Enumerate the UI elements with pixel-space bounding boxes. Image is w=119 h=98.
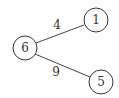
node-6-label: 6 bbox=[21, 41, 29, 55]
node-1: 1 bbox=[84, 8, 108, 32]
graph-diagram: 4 9 6 1 5 bbox=[0, 0, 119, 98]
edge-weight-6-5: 9 bbox=[52, 65, 60, 79]
edge-weight-6-1: 4 bbox=[53, 18, 61, 32]
node-5: 5 bbox=[89, 70, 113, 94]
edge-6-5 bbox=[35, 54, 90, 77]
node-1-label: 1 bbox=[92, 13, 100, 27]
node-6: 6 bbox=[13, 36, 37, 60]
node-5-label: 5 bbox=[97, 75, 105, 89]
